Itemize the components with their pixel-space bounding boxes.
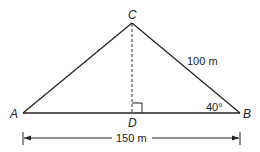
vertex-label-a: A (9, 107, 18, 121)
arrowhead-left-icon (24, 136, 31, 141)
side-ab-length: 150 m (116, 132, 147, 144)
side-cb (132, 23, 240, 113)
right-angle-marker (132, 103, 142, 113)
side-ac (23, 23, 132, 113)
vertex-label-b: B (243, 107, 251, 121)
angle-b-label: 40° (206, 101, 223, 113)
vertex-label-d: D (128, 116, 137, 130)
side-cb-length: 100 m (187, 55, 218, 67)
vertex-label-c: C (128, 8, 137, 22)
arrowhead-right-icon (232, 136, 239, 141)
triangle-diagram: C A B D 100 m 40° 150 m (0, 0, 260, 152)
